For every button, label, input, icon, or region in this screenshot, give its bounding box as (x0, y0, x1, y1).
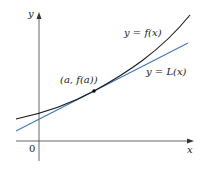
curve-label: y = f(x) (123, 27, 162, 38)
tangent-line-label: y = L(x) (145, 66, 187, 77)
y-axis-arrow-icon (37, 12, 42, 19)
origin-label: 0 (29, 143, 35, 154)
x-axis-label: x (187, 144, 193, 155)
point-label: (a, f(a)) (60, 74, 98, 85)
x-axis-arrow-icon (187, 139, 194, 144)
y-axis-label: y (27, 8, 34, 19)
tangent-point (92, 89, 95, 92)
linear-approximation-diagram: y x 0 y = f(x) y = L(x) (a, f(a)) (0, 0, 205, 170)
